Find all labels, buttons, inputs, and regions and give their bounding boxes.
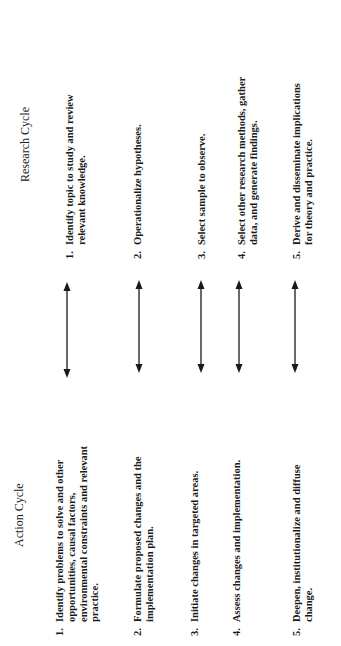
- research-item-text-line: data, and generate findings.: [248, 77, 260, 245]
- research-item-5: 5. Derive and disseminate implications f…: [291, 83, 315, 259]
- research-item-4: 4. Select other research methods, gather…: [236, 77, 260, 259]
- action-item-number: 4.: [231, 622, 243, 636]
- research-item-text-line: Operationalize hypotheses.: [132, 124, 144, 245]
- action-item-2: 2. Formulate proposed changes and the im…: [132, 457, 156, 636]
- action-item-5: 5. Deepen, institutionalize and diffuse …: [291, 464, 315, 636]
- research-item-text-line: Identify topic to study and review: [64, 94, 76, 245]
- action-item-text-line: change.: [303, 464, 315, 622]
- action-item-number: 5.: [291, 622, 315, 636]
- double-headed-arrow-icon: [290, 280, 300, 373]
- action-research-diagram: Action Cycle Research Cycle 1. Identify …: [0, 0, 341, 646]
- double-arrow-2: [134, 280, 144, 373]
- research-item-text-line: Select other research methods, gather: [236, 77, 248, 245]
- research-cycle-title: Research Cycle: [18, 107, 33, 182]
- double-headed-arrow-icon: [134, 280, 144, 373]
- double-headed-arrow-icon: [234, 280, 244, 373]
- double-arrow-5: [290, 280, 300, 373]
- research-item-number: 4.: [236, 245, 260, 259]
- action-cycle-title: Action Cycle: [12, 483, 27, 547]
- action-item-3: 3. Initiate changes in targeted areas.: [189, 471, 201, 636]
- double-arrow-3: [196, 280, 206, 373]
- action-item-number: 2.: [132, 622, 156, 636]
- action-item-text-line: practice.: [89, 446, 101, 622]
- action-item-text-line: Assess changes and implementation.: [231, 460, 243, 622]
- research-item-1: 1. Identify topic to study and review re…: [64, 94, 88, 259]
- action-item-4: 4. Assess changes and implementation.: [231, 460, 243, 636]
- action-item-1: 1. Identify problems to solve and other …: [54, 446, 101, 636]
- research-item-3: 3. Select sample to observe.: [196, 134, 208, 259]
- action-item-text-line: Initiate changes in targeted areas.: [189, 471, 201, 622]
- research-item-text-line: Derive and disseminate implications: [291, 83, 303, 245]
- action-item-number: 3.: [189, 622, 201, 636]
- research-item-number: 2.: [132, 245, 144, 259]
- double-headed-arrow-icon: [196, 280, 206, 373]
- research-item-number: 5.: [291, 245, 315, 259]
- action-item-text-line: Formulate proposed changes and the: [132, 457, 144, 622]
- double-arrow-1: [62, 282, 72, 378]
- research-item-text-line: relevant knowledge.: [76, 94, 88, 245]
- research-item-number: 3.: [196, 245, 208, 259]
- double-arrow-4: [234, 280, 244, 373]
- research-item-text-line: for theory and practice.: [303, 83, 315, 245]
- research-item-text-line: Select sample to observe.: [196, 134, 208, 245]
- action-item-text-line: Deepen, institutionalize and diffuse: [291, 464, 303, 622]
- double-headed-arrow-icon: [62, 282, 72, 378]
- research-item-2: 2. Operationalize hypotheses.: [132, 124, 144, 259]
- action-item-text-line: opportunities, causal factors,: [66, 446, 78, 622]
- action-item-text-line: environmental constraints and relevant: [78, 446, 90, 622]
- action-item-text-line: implementation plan.: [144, 457, 156, 622]
- action-item-text-line: Identify problems to solve and other: [54, 446, 66, 622]
- research-item-number: 1.: [64, 245, 88, 259]
- action-item-number: 1.: [54, 622, 101, 636]
